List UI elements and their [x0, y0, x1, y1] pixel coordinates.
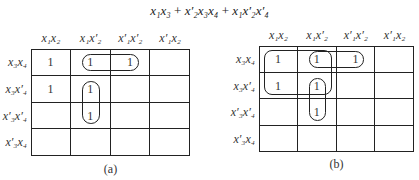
map-caption: (a): [91, 162, 131, 177]
column-header: x′₁x₂: [150, 31, 190, 46]
boolean-expression: x₁x₃ + x′₂x₃x₄ + x₁x′₂x′₄: [0, 3, 419, 19]
grouping-loop: [82, 81, 100, 125]
column-header: x′₁x′₂: [111, 31, 151, 46]
kmap-cell: [150, 129, 190, 156]
row-header: x′₃x₄: [221, 132, 255, 147]
kmap-cell: [375, 99, 414, 126]
kmap-cell: [150, 76, 190, 103]
kmap-cell: [150, 103, 190, 130]
plus-operator: +: [222, 3, 229, 18]
row-header: x′₃x′₄: [221, 105, 255, 120]
grouping-loop: [309, 51, 365, 68]
grouping-loop: [309, 78, 326, 121]
row-header: x₃x₄: [0, 55, 27, 70]
kmap-cell: [111, 76, 151, 103]
column-header: x₁x′₂: [71, 31, 111, 46]
kmap-cell: [31, 129, 71, 156]
kmap-cell: [337, 73, 376, 100]
column-header: x₁x₂: [31, 31, 71, 46]
expression-term: x₁x′₂x′₄: [232, 3, 269, 18]
column-header: x₁x′₂: [298, 28, 337, 43]
kmap-cell: [150, 49, 190, 76]
kmap-cell: [337, 126, 376, 153]
kmap-cell: [375, 126, 414, 153]
grouping-loop: [82, 54, 140, 71]
kmap-cell: [111, 103, 151, 130]
plus-operator: +: [174, 3, 181, 18]
kmap-cell: [111, 129, 151, 156]
kmap-cell: [259, 126, 298, 153]
row-header: x₃x′₄: [0, 82, 27, 97]
kmap-cell: [71, 129, 111, 156]
row-header: x₃x′₄: [221, 79, 255, 94]
column-header: x′₁x₂: [375, 28, 414, 43]
column-header: x₁x₂: [259, 28, 298, 43]
kmap-cell: [31, 103, 71, 130]
kmap-cell: [375, 46, 414, 73]
kmap-cell: 1: [31, 49, 71, 76]
kmap-cell: [337, 99, 376, 126]
kmap-cell: [259, 99, 298, 126]
row-header: x′₃x′₄: [0, 109, 27, 124]
kmap-cell: [298, 126, 337, 153]
kmap-cell: 1: [31, 76, 71, 103]
column-header: x′₁x′₂: [337, 28, 376, 43]
row-header: x′₃x₄: [0, 135, 27, 150]
expression-term: x₁x₃: [150, 3, 171, 18]
row-header: x₃x₄: [221, 52, 255, 67]
expression-term: x′₂x₃x₄: [185, 3, 219, 18]
map-caption: (b): [317, 157, 357, 172]
kmap-cell: [375, 73, 414, 100]
